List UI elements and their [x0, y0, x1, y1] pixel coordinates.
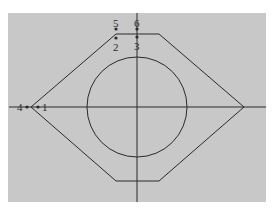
- label-6: 6: [134, 17, 140, 29]
- label-3: 3: [134, 40, 140, 52]
- point-2-dot: [114, 36, 117, 39]
- point-3-dot: [135, 35, 138, 38]
- point-1-dot: [36, 105, 39, 108]
- label-2: 2: [113, 41, 119, 53]
- label-4: 4: [17, 101, 23, 113]
- label-1: 1: [42, 101, 48, 113]
- point-4-dot: [25, 105, 28, 108]
- label-5: 5: [113, 17, 119, 29]
- diagram-canvas: 4 1 5 2 6 3: [0, 0, 273, 209]
